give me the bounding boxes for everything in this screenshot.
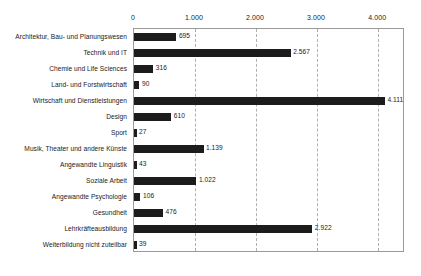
bar-row: 2.922	[134, 221, 403, 237]
bar-row: 695	[134, 29, 403, 45]
bar-row: 1.139	[134, 141, 403, 157]
y-axis-category-label: Angewandte Linguistik	[60, 161, 127, 168]
y-axis-category-label: Weiterbildung nicht zuteilbar	[43, 241, 127, 248]
bar-value-label: 39	[139, 238, 146, 250]
bar	[134, 49, 291, 57]
plot-area: 6952.567316904.111610271.139431.02210647…	[133, 28, 404, 252]
x-tick-label: 4.000	[368, 14, 386, 21]
bar-row: 90	[134, 77, 403, 93]
bar-row: 27	[134, 125, 403, 141]
bar-row: 2.567	[134, 45, 403, 61]
y-axis-category-label: Architektur, Bau- und Planungswesen	[15, 33, 127, 40]
bar-value-label: 1.022	[199, 174, 216, 186]
bar-value-label: 43	[139, 158, 146, 170]
bar-row: 4.111	[134, 93, 403, 109]
x-tick-label: 0	[131, 14, 135, 21]
y-axis-category-label: Design	[106, 113, 127, 120]
bar	[134, 113, 171, 121]
bar	[134, 193, 140, 201]
bars-layer: 6952.567316904.111610271.139431.02210647…	[134, 29, 403, 251]
bar-row: 476	[134, 205, 403, 221]
bar-value-label: 1.139	[206, 142, 223, 154]
bar	[134, 177, 196, 185]
bar-row: 106	[134, 189, 403, 205]
y-axis-category-label: Technik und IT	[83, 49, 127, 56]
bar-value-label: 316	[156, 62, 167, 74]
bar	[134, 65, 153, 73]
bar-value-label: 695	[179, 30, 190, 42]
bar-value-label: 476	[166, 206, 177, 218]
y-axis-category-label: Musik, Theater und andere Künste	[24, 145, 127, 152]
bar-row: 43	[134, 157, 403, 173]
bar-value-label: 106	[143, 190, 154, 202]
y-axis-category-labels: Architektur, Bau- und PlanungswesenTechn…	[0, 28, 131, 252]
y-axis-category-label: Sport	[111, 129, 127, 136]
y-axis-category-label: Land- und Forstwirtschaft	[51, 81, 127, 88]
y-axis-category-label: Soziale Arbeit	[86, 177, 127, 184]
x-tick-label: 1.000	[185, 14, 203, 21]
bar-row: 316	[134, 61, 403, 77]
bar	[134, 241, 137, 249]
bar	[134, 161, 137, 169]
bar	[134, 129, 137, 137]
y-axis-category-label: Chemie und Life Sciences	[49, 65, 127, 72]
bar	[134, 209, 163, 217]
y-axis-category-label: Gesundheit	[93, 209, 127, 216]
bar-value-label: 4.111	[387, 94, 403, 106]
bar	[134, 97, 385, 105]
y-axis-category-label: Lehrkräfteausbildung	[64, 225, 127, 232]
bar-row: 39	[134, 237, 403, 253]
bar-value-label: 610	[174, 110, 185, 122]
x-tick-label: 3.000	[307, 14, 325, 21]
bar-row: 1.022	[134, 173, 403, 189]
y-axis-category-label: Angewandte Psychologie	[52, 193, 127, 200]
bar-value-label: 27	[139, 126, 146, 138]
bar-row: 610	[134, 109, 403, 125]
bar	[134, 33, 176, 41]
y-axis-category-label: Wirtschaft und Dienstleistungen	[33, 97, 127, 104]
bar-value-label: 2.567	[293, 46, 310, 58]
bar	[134, 81, 139, 89]
bar-value-label: 2.922	[315, 222, 332, 234]
bar	[134, 145, 204, 153]
bar	[134, 225, 312, 233]
x-axis-tick-labels: 01.0002.0003.0004.000	[0, 14, 421, 26]
x-tick-label: 2.000	[246, 14, 264, 21]
bar-value-label: 90	[142, 78, 149, 90]
bar-chart: 01.0002.0003.0004.000 Architektur, Bau- …	[0, 0, 421, 276]
